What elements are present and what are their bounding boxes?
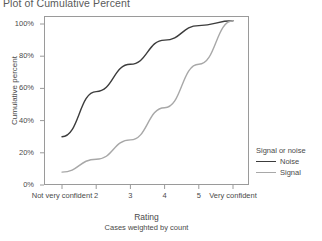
- x-axis-tick-label: Very confident: [209, 191, 257, 200]
- x-axis-title: Rating: [44, 212, 249, 222]
- x-axis-tick-label: 4: [163, 191, 167, 200]
- legend-title: Signal or noise: [256, 146, 322, 155]
- legend-item[interactable]: Noise: [256, 156, 322, 166]
- x-axis-subtitle: Cases weighted by count: [44, 223, 249, 232]
- legend-item-label: Noise: [280, 157, 299, 166]
- x-axis-tick-label: 2: [94, 191, 98, 200]
- y-axis-tick-label: 40%: [4, 116, 34, 125]
- x-axis-ticks: [62, 185, 233, 189]
- y-axis-tick-label: 0%: [4, 180, 34, 189]
- series-line-noise: [62, 21, 233, 137]
- x-axis-tick-label: 5: [197, 191, 201, 200]
- legend-swatch-icon: [256, 161, 276, 162]
- legend-items: NoiseSignal: [256, 156, 322, 177]
- y-axis-ticks: [40, 24, 44, 185]
- y-axis-tick-label: 100%: [4, 19, 34, 28]
- legend-item-label: Signal: [280, 168, 301, 177]
- y-axis-title: Cumulative percent: [10, 41, 19, 141]
- chart-svg-layer: [0, 0, 322, 241]
- y-axis-tick-label: 20%: [4, 148, 34, 157]
- chart-legend: Signal or noise NoiseSignal: [256, 146, 322, 177]
- legend-item[interactable]: Signal: [256, 167, 322, 177]
- x-axis-tick-label: Not very confident: [32, 191, 92, 200]
- series-lines: [62, 21, 233, 172]
- y-axis-tick-label: 80%: [4, 51, 34, 60]
- x-axis-tick-label: 3: [128, 191, 132, 200]
- legend-swatch-icon: [256, 172, 276, 173]
- cumulative-percent-chart: Plot of Cumulative Percent 0%20%40%60%80…: [0, 0, 322, 241]
- y-axis-tick-label: 60%: [4, 83, 34, 92]
